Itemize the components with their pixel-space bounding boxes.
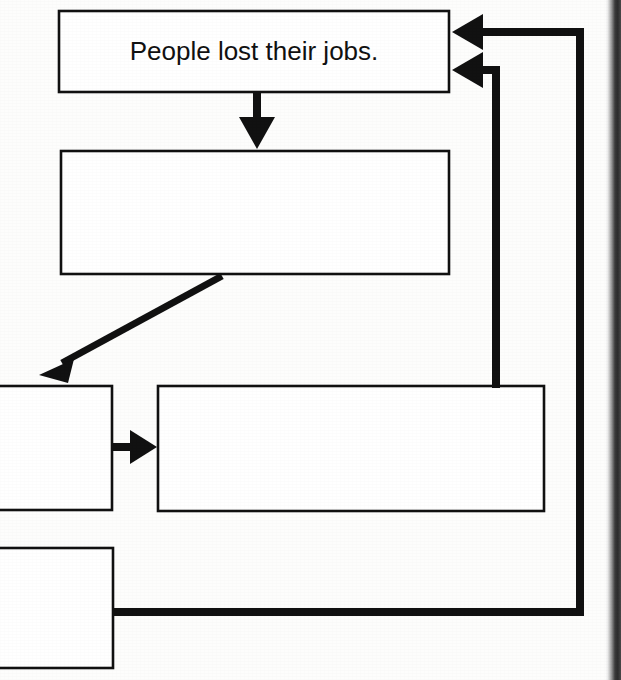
arrow-jobs-to-second-box [239,93,275,149]
page-scan-edge [605,0,621,680]
feedback-arrow-large-box-to-jobs-box [452,52,496,388]
flowchart-canvas: People lost their jobs. [0,0,621,680]
node-people-lost-their-jobs[interactable]: People lost their jobs. [59,11,449,92]
arrow-second-box-to-mid-left-box [39,276,222,383]
flowchart-connectors [39,14,580,612]
feedback-arrow-large-box-to-jobs-box-path [479,70,496,388]
arrow-second-box-to-mid-left-box-shaft [62,276,222,363]
arrow-mid-left-box-to-large-box-head [130,430,157,464]
node-large-right-box-rect[interactable] [158,386,544,511]
node-large-right-box[interactable] [158,386,544,511]
flowchart-page: People lost their jobs. [0,0,621,680]
node-people-lost-their-jobs-label: People lost their jobs. [130,36,379,66]
feedback-arrow-bottom-left-box-to-jobs-box [113,14,580,612]
arrow-jobs-to-second-box-head [239,117,275,149]
node-second-box[interactable] [61,151,449,274]
node-bottom-left-box-rect[interactable] [0,548,113,668]
node-mid-left-box-rect[interactable] [0,386,112,510]
flowchart-nodes: People lost their jobs. [0,11,544,668]
arrow-mid-left-box-to-large-box [112,430,157,464]
arrow-second-box-to-mid-left-box-head [39,359,74,383]
feedback-arrow-large-box-to-jobs-box-head [452,52,483,88]
feedback-arrow-bottom-left-box-to-jobs-box-head [452,14,483,50]
node-mid-left-box[interactable] [0,386,112,510]
node-second-box-rect[interactable] [61,151,449,274]
node-bottom-left-box[interactable] [0,548,113,668]
feedback-arrow-bottom-left-box-to-jobs-box-path [113,32,580,612]
